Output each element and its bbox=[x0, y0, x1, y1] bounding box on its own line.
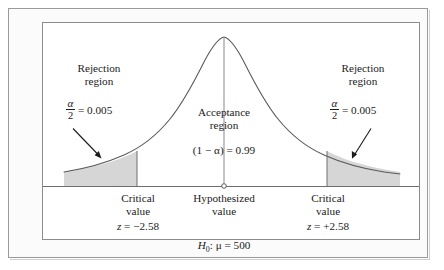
figure-page: Rejection region α 2 = 0.005 Rejection r… bbox=[0, 0, 444, 270]
left-alpha-denominator: 2 bbox=[67, 111, 74, 122]
left-alpha-half-expression: α 2 = 0.005 bbox=[66, 98, 112, 122]
right-critical-value-label: Critical value bbox=[294, 192, 362, 217]
left-rejection-region-line1: Rejection bbox=[56, 62, 142, 75]
confidence-level-label: (1 − α) = 0.99 bbox=[178, 144, 270, 157]
right-critical-value-line2: value bbox=[294, 205, 362, 218]
null-hypothesis-h-symbol: H bbox=[198, 239, 206, 251]
right-rejection-region-line2: region bbox=[320, 75, 406, 88]
left-rejection-arrow bbox=[73, 129, 102, 159]
right-alpha-numerator: α bbox=[331, 98, 339, 109]
right-alpha-value: = 0.005 bbox=[342, 104, 376, 116]
right-critical-z-value: z = +2.58 bbox=[294, 220, 362, 233]
right-alpha-half-expression: α 2 = 0.005 bbox=[330, 98, 376, 122]
left-critical-value-label: Critical value bbox=[104, 192, 172, 217]
left-alpha-value: = 0.005 bbox=[78, 104, 112, 116]
hypothesized-value-line2: value bbox=[178, 205, 270, 218]
right-rejection-region-line1: Rejection bbox=[320, 62, 406, 75]
left-rejection-region-label: Rejection region bbox=[56, 62, 142, 87]
null-hypothesis-body: : μ = 500 bbox=[210, 239, 251, 251]
left-alpha-fraction: α 2 bbox=[66, 98, 75, 122]
right-z-number: = +2.58 bbox=[311, 220, 349, 232]
acceptance-region-label: Acceptance region bbox=[178, 106, 270, 131]
acceptance-region-line1: Acceptance bbox=[178, 106, 270, 119]
hypothesized-value-label: Hypothesized value bbox=[178, 192, 270, 217]
distribution-curve-graphic bbox=[0, 0, 444, 270]
right-alpha-fraction: α 2 bbox=[330, 98, 339, 122]
left-alpha-numerator: α bbox=[67, 98, 75, 109]
right-alpha-denominator: 2 bbox=[331, 111, 338, 122]
hypothesized-value-marker bbox=[222, 184, 227, 189]
left-z-number: = −2.58 bbox=[121, 220, 159, 232]
left-critical-value-line2: value bbox=[104, 205, 172, 218]
right-critical-value-line1: Critical bbox=[294, 192, 362, 205]
left-critical-z-value: z = −2.58 bbox=[104, 220, 172, 233]
acceptance-region-line2: region bbox=[178, 119, 270, 132]
left-rejection-region-line2: region bbox=[56, 75, 142, 88]
left-critical-value-line1: Critical bbox=[104, 192, 172, 205]
right-rejection-shaded-area bbox=[327, 151, 400, 187]
hypothesized-value-line1: Hypothesized bbox=[178, 192, 270, 205]
right-rejection-region-label: Rejection region bbox=[320, 62, 406, 87]
null-hypothesis-statement: H0: μ = 500 bbox=[178, 239, 270, 255]
right-rejection-arrow bbox=[352, 129, 371, 159]
